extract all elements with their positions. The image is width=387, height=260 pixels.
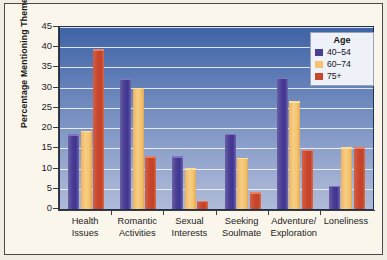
bar [354, 147, 365, 209]
x-tick-mark [163, 211, 164, 215]
legend-swatch [315, 49, 323, 56]
bar [145, 156, 156, 209]
bar-cap [133, 88, 144, 90]
bar [341, 147, 352, 209]
y-tick-label: 35 [12, 61, 52, 71]
legend-swatch [315, 73, 323, 80]
bar-cap [289, 101, 300, 103]
bar [329, 186, 340, 209]
y-tick-label: 20 [12, 122, 52, 132]
bar [289, 101, 300, 209]
y-tick-label: 0 [12, 203, 52, 213]
legend-entry: 40–54 [315, 47, 369, 58]
y-tick-label: 10 [12, 163, 52, 173]
chart-figure: Percentage Mentioning Theme 051015202530… [0, 0, 387, 260]
y-tick-label: 30 [12, 82, 52, 92]
x-axis-label-line: Loneliness [314, 216, 378, 228]
bar-group [60, 27, 112, 209]
x-tick-mark [111, 211, 112, 215]
bar [172, 156, 183, 209]
legend-swatch [315, 61, 323, 68]
x-axis-label: Loneliness [314, 216, 378, 228]
x-tick-mark [320, 211, 321, 215]
figure-frame: Percentage Mentioning Theme 051015202530… [4, 3, 383, 255]
y-tick-label: 40 [12, 41, 52, 51]
bar-cap [237, 158, 248, 160]
bar-cap [354, 147, 365, 149]
bar [133, 88, 144, 209]
bar [120, 79, 131, 209]
bar-cap [250, 192, 261, 194]
bar-cap [68, 134, 79, 136]
bar [197, 201, 208, 209]
bar [93, 49, 104, 209]
bar [277, 78, 288, 209]
legend-label: 60–74 [327, 59, 351, 70]
x-tick-mark [216, 211, 217, 215]
legend-label: 75+ [327, 71, 342, 82]
bar [302, 150, 313, 209]
legend: Age 40–5460–7475+ [310, 32, 374, 86]
legend-title: Age [315, 35, 369, 46]
bar [237, 158, 248, 209]
bar-cap [225, 134, 236, 136]
bar-group [112, 27, 164, 209]
bar [185, 168, 196, 209]
bar-cap [81, 131, 92, 133]
bar-cap [120, 79, 131, 81]
x-tick-mark [268, 211, 269, 215]
bar [81, 131, 92, 209]
bar-cap [302, 150, 313, 152]
bar-cap [197, 201, 208, 203]
bar-cap [341, 147, 352, 149]
y-tick-label: 15 [12, 142, 52, 152]
bar-group [164, 27, 216, 209]
bar-cap [185, 168, 196, 170]
bar-cap [93, 49, 104, 51]
bar [225, 134, 236, 209]
legend-entry: 75+ [315, 71, 369, 82]
x-axis-label-line: Exploration [262, 228, 326, 240]
y-axis-ticks: 051015202530354045 [5, 4, 52, 260]
bar-cap [277, 78, 288, 80]
bar [250, 192, 261, 209]
legend-entry: 60–74 [315, 59, 369, 70]
bar-group [217, 27, 269, 209]
y-tick-label: 5 [12, 183, 52, 193]
x-axis-line [58, 210, 375, 211]
legend-entries: 40–5460–7475+ [315, 47, 369, 82]
y-tick-label: 45 [12, 21, 52, 31]
y-tick-label: 25 [12, 102, 52, 112]
bar-cap [172, 156, 183, 158]
legend-label: 40–54 [327, 47, 351, 58]
bar [68, 134, 79, 209]
bar-cap [329, 186, 340, 188]
bar-cap [145, 156, 156, 158]
